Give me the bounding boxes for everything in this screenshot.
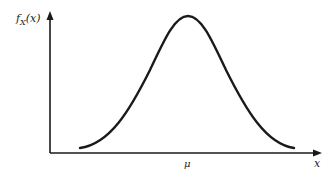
y-axis-label: fX(x) [15, 12, 41, 27]
x-axis-label: x [314, 157, 321, 170]
x-axis-arrow-icon [313, 150, 322, 157]
y-axis-arrow-icon [47, 11, 54, 20]
density-diagram: fX(x) μ x [0, 0, 330, 176]
mean-label: μ [184, 158, 191, 169]
density-curve [80, 16, 294, 148]
diagram-svg: fX(x) μ x [0, 0, 330, 176]
